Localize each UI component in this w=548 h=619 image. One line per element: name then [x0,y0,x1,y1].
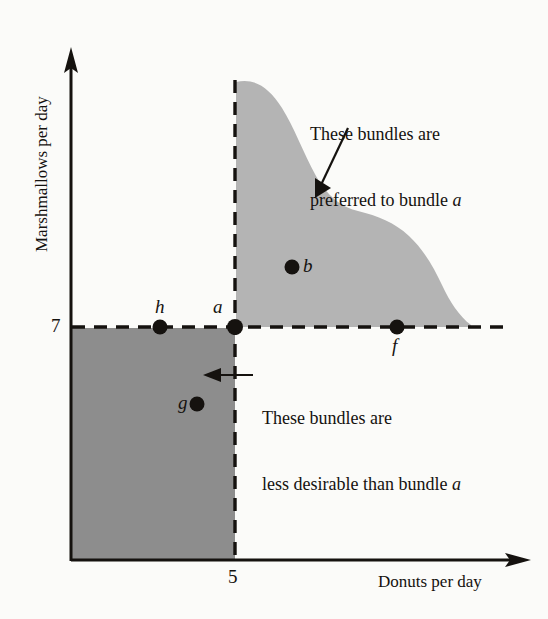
preferred-annotation-line1: These bundles are [310,124,461,146]
data-point-f[interactable] [390,320,405,335]
y-axis-title: Marshmallows per day [32,96,53,252]
point-label-f: f [392,334,397,357]
y-axis-tick-label-7: 7 [51,314,61,337]
point-label-a: a [213,295,223,318]
preferred-annotation-line2-prefix: preferred to bundle [310,190,452,210]
worse-annotation-line1: These bundles are [262,408,461,430]
worse-annotation-line2: less desirable than bundle a [262,474,461,496]
data-point-h[interactable] [153,320,168,335]
x-axis-title: Donuts per day [378,572,482,593]
data-point-g[interactable] [190,397,205,412]
worse-annotation-line2-prefix: less desirable than bundle [262,474,452,494]
preferred-annotation-bundle-name: a [452,190,461,210]
data-point-a[interactable] [227,319,243,335]
worse-region-shape [72,328,235,560]
preferred-annotation-line2: preferred to bundle a [310,190,461,212]
indifference-bundles-figure: Marshmallows per day Donuts per day 7 5 … [0,0,548,619]
point-label-g: g [178,391,188,414]
point-label-b: b [303,254,313,277]
worse-annotation-text: These bundles are less desirable than bu… [262,364,461,540]
x-axis-tick-label-5: 5 [228,565,238,588]
data-point-b[interactable] [285,260,300,275]
preferred-annotation-text: These bundles are preferred to bundle a [310,80,461,256]
point-label-h: h [155,295,165,318]
worse-annotation-bundle-name: a [452,474,461,494]
